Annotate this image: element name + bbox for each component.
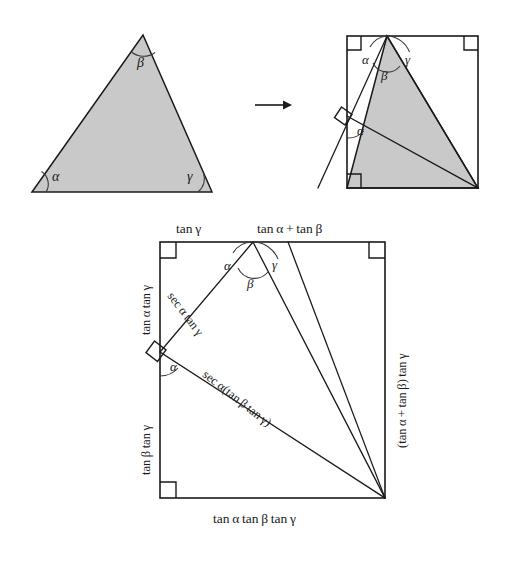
- pivot-to-corner-line-bottom: [160, 352, 385, 498]
- bottom-construction-group: [146, 242, 385, 498]
- right-angle-mark-top-right-corner-bottom: [369, 242, 385, 258]
- top-left-triangle-group: [32, 35, 212, 192]
- top-right-construction-group: [318, 36, 478, 188]
- right-angle-mark-top-right-corner-tr: [464, 36, 478, 50]
- right-angle-mark-top-left-corner-bottom: [160, 242, 176, 258]
- angle-label-gamma-top-left: γ: [187, 170, 193, 184]
- edge-label-left-lower: tan β tan γ: [140, 425, 153, 475]
- apex-to-corner-line-bottom: [253, 242, 385, 498]
- figure-root: α β γ α β γ α α β γ α tan γ tan α + tan …: [0, 0, 522, 565]
- right-angle-mark-pivot-bottom: [146, 341, 166, 362]
- edge-label-top-right: tan α + tan β: [257, 222, 322, 236]
- transform-arrow-group: [255, 101, 292, 110]
- angle-label-gamma-bottom: γ: [272, 258, 277, 271]
- angle-label-alpha-pivot-bottom: α: [170, 360, 177, 373]
- edge-label-left-upper: tan α tan γ: [140, 285, 153, 335]
- edge-label-top-left: tan γ: [176, 222, 201, 236]
- edge-label-right: (tan α + tan β) tan γ: [396, 353, 409, 448]
- diagram-canvas: [0, 0, 522, 565]
- angle-label-alpha-bottom: α: [224, 259, 231, 272]
- angle-label-beta-top-right: β: [381, 69, 387, 82]
- angle-label-beta-bottom: β: [247, 277, 253, 290]
- alpha-arc-bottom: [233, 242, 253, 253]
- right-angle-mark-top-left-corner-tr: [347, 36, 361, 50]
- edge-label-bottom: tan α tan β tan γ: [213, 512, 296, 526]
- apex-right-line-bottom: [288, 242, 385, 498]
- original-triangle-shape: [32, 35, 212, 192]
- arrow-head: [283, 101, 292, 110]
- angle-label-gamma-top-right: γ: [405, 53, 410, 66]
- angle-label-alpha-top-right: α: [362, 53, 369, 66]
- angle-label-beta-top-left: β: [137, 56, 144, 70]
- angle-label-alpha-pivot-top-right: α: [357, 124, 364, 137]
- angle-label-alpha-top-left: α: [52, 170, 59, 184]
- right-angle-mark-bottom-left-corner-bottom: [160, 482, 176, 498]
- right-angle-mark-pivot-tr: [335, 107, 353, 125]
